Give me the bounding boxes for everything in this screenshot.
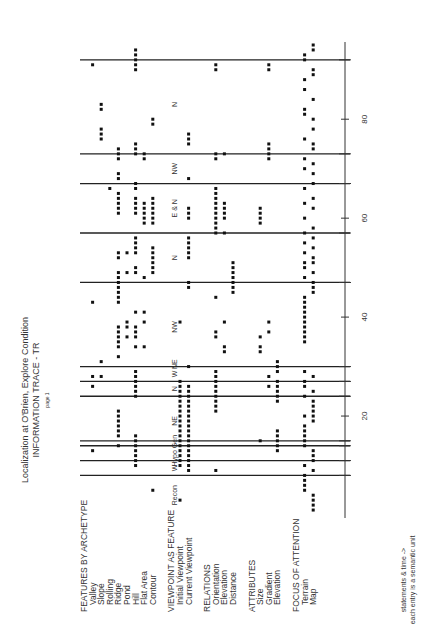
data-point — [303, 241, 306, 244]
data-point — [312, 449, 315, 452]
data-point — [179, 380, 182, 383]
data-point — [312, 509, 315, 512]
data-point — [143, 217, 146, 220]
data-point — [303, 335, 306, 338]
data-point — [303, 474, 306, 477]
data-point — [187, 420, 190, 423]
data-point — [91, 63, 94, 66]
data-point — [151, 123, 154, 126]
data-point — [312, 281, 315, 284]
data-point — [312, 261, 315, 264]
data-point — [143, 212, 146, 215]
data-point — [151, 251, 154, 254]
data-point — [117, 340, 120, 343]
data-point — [214, 375, 217, 378]
x-tick-label: 60 — [360, 213, 369, 222]
data-point — [134, 152, 137, 155]
data-point — [117, 444, 120, 447]
data-point — [187, 395, 190, 398]
data-point — [303, 330, 306, 333]
data-point — [259, 345, 262, 348]
data-point — [312, 410, 315, 413]
data-point — [151, 118, 154, 121]
data-point — [312, 197, 315, 200]
data-point — [259, 439, 262, 442]
data-point — [187, 439, 190, 442]
data-point — [187, 415, 190, 418]
chart-titles: Localization at O'Brien, Explore Conditi… — [20, 317, 50, 483]
data-point — [187, 133, 190, 136]
data-point — [126, 326, 129, 329]
data-point — [100, 108, 103, 111]
data-point — [223, 321, 226, 324]
data-point — [126, 271, 129, 274]
data-point — [276, 365, 279, 368]
data-point — [151, 197, 154, 200]
x-axis-note: each entry is a semantic unit — [409, 536, 417, 625]
data-point — [100, 375, 103, 378]
data-point — [134, 385, 137, 388]
episode-label: N — [171, 255, 178, 260]
data-point — [179, 395, 182, 398]
data-point — [303, 415, 306, 418]
data-point — [117, 286, 120, 289]
data-point — [303, 202, 306, 205]
data-point — [117, 192, 120, 195]
episode-label: NW — [171, 321, 178, 333]
x-axis: 20406080 — [339, 42, 369, 518]
data-point — [312, 291, 315, 294]
data-point — [117, 197, 120, 200]
episode-label: NE — [171, 359, 178, 369]
data-point — [214, 390, 217, 393]
data-point — [312, 469, 315, 472]
data-point — [117, 256, 120, 259]
data-point — [303, 108, 306, 111]
data-point — [134, 326, 137, 329]
data-point — [312, 48, 315, 51]
data-point — [312, 147, 315, 150]
data-point — [134, 58, 137, 61]
data-point — [134, 311, 137, 314]
data-point — [303, 484, 306, 487]
data-point — [134, 459, 137, 462]
data-point — [187, 286, 190, 289]
data-point — [117, 420, 120, 423]
data-point — [214, 207, 217, 210]
data-point — [312, 420, 315, 423]
data-point — [134, 236, 137, 239]
data-point — [117, 429, 120, 432]
data-point — [187, 177, 190, 180]
data-point — [187, 241, 190, 244]
data-point — [134, 212, 137, 215]
data-point — [312, 182, 315, 185]
data-point — [187, 454, 190, 457]
episode-label: Hypo Gen — [171, 435, 179, 467]
data-point — [303, 157, 306, 160]
data-point — [134, 187, 137, 190]
data-point — [276, 380, 279, 383]
data-point — [312, 73, 315, 76]
data-point — [312, 44, 315, 47]
data-point — [312, 128, 315, 131]
data-point — [312, 286, 315, 289]
page-label: page 1 — [44, 392, 50, 408]
data-point — [303, 251, 306, 254]
row-label: Distance — [228, 572, 238, 605]
data-point — [312, 236, 315, 239]
data-point — [151, 256, 154, 259]
data-point — [179, 424, 182, 427]
data-point — [134, 454, 137, 457]
data-point — [214, 370, 217, 373]
data-point — [126, 321, 129, 324]
data-point — [134, 142, 137, 145]
data-point — [91, 385, 94, 388]
chart-title: Localization at O'Brien, Explore Conditi… — [20, 317, 30, 483]
data-point — [303, 380, 306, 383]
data-point — [312, 499, 315, 502]
data-point — [312, 118, 315, 121]
data-point — [151, 217, 154, 220]
data-point — [312, 162, 315, 165]
data-point — [223, 345, 226, 348]
data-point — [303, 439, 306, 442]
data-point — [187, 449, 190, 452]
